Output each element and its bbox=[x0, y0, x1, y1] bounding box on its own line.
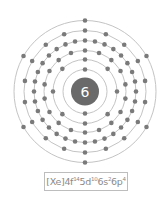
electron bbox=[109, 121, 114, 126]
electron bbox=[111, 132, 116, 137]
electron bbox=[40, 118, 45, 123]
config-orbital: 6s bbox=[97, 176, 107, 187]
electron bbox=[43, 136, 48, 141]
electron bbox=[123, 82, 128, 87]
electron bbox=[97, 128, 102, 133]
electron bbox=[134, 89, 139, 94]
electron bbox=[63, 136, 68, 141]
nucleus-label: 6 bbox=[81, 84, 90, 100]
electron bbox=[40, 61, 45, 66]
electron bbox=[69, 128, 74, 133]
electron bbox=[21, 54, 26, 59]
config-orbital: 6p bbox=[111, 176, 122, 187]
electron bbox=[83, 57, 88, 62]
electron bbox=[104, 147, 109, 152]
electron bbox=[51, 89, 56, 94]
bohr-model-diagram: 6 bbox=[0, 0, 167, 170]
electron bbox=[73, 139, 78, 144]
electron bbox=[130, 109, 135, 114]
electron bbox=[93, 39, 98, 44]
electron bbox=[123, 96, 128, 101]
electron bbox=[33, 99, 38, 104]
electron bbox=[47, 69, 52, 74]
electron bbox=[47, 125, 52, 130]
electron bbox=[115, 89, 120, 94]
electron bbox=[23, 79, 28, 84]
electron bbox=[119, 125, 124, 130]
electron bbox=[136, 59, 141, 64]
electron bbox=[32, 89, 37, 94]
electron bbox=[21, 125, 26, 130]
electron bbox=[144, 125, 149, 130]
electron bbox=[102, 136, 107, 141]
electron bbox=[118, 110, 123, 115]
config-electron-count: 4 bbox=[123, 176, 126, 182]
electron bbox=[83, 38, 88, 43]
electron bbox=[119, 53, 124, 58]
config-orbital: 5d bbox=[80, 176, 91, 187]
electron bbox=[136, 120, 141, 125]
electron bbox=[83, 28, 88, 33]
electron bbox=[105, 67, 110, 72]
electron bbox=[83, 140, 88, 145]
electron bbox=[102, 42, 107, 47]
electron bbox=[23, 100, 28, 105]
electron bbox=[62, 147, 67, 152]
electron bbox=[83, 160, 88, 165]
electron bbox=[125, 118, 130, 123]
electron bbox=[83, 121, 88, 126]
electron bbox=[36, 109, 41, 114]
electron bbox=[42, 96, 47, 101]
electron bbox=[47, 53, 52, 58]
electron bbox=[125, 61, 130, 66]
electron-configuration: [Xe] 4f145d106s26p4 bbox=[44, 172, 128, 191]
electron bbox=[30, 59, 35, 64]
electron bbox=[97, 51, 102, 56]
electron bbox=[63, 42, 68, 47]
electron bbox=[56, 121, 61, 126]
electron bbox=[60, 112, 65, 117]
electron bbox=[42, 82, 47, 87]
electron bbox=[83, 48, 88, 53]
electron bbox=[109, 58, 114, 63]
electron bbox=[122, 42, 127, 47]
config-terms: 4f145d106s26p4 bbox=[64, 176, 125, 187]
electron bbox=[143, 100, 148, 105]
electron bbox=[54, 132, 59, 137]
electron bbox=[118, 69, 123, 74]
electron bbox=[93, 139, 98, 144]
electron bbox=[36, 70, 41, 75]
electron bbox=[56, 58, 61, 63]
electron bbox=[30, 120, 35, 125]
electron bbox=[105, 112, 110, 117]
electron bbox=[60, 67, 65, 72]
electron bbox=[122, 136, 127, 141]
electron bbox=[62, 32, 67, 37]
electron bbox=[47, 110, 52, 115]
electron bbox=[43, 42, 48, 47]
electron bbox=[130, 70, 135, 75]
electron bbox=[83, 67, 88, 72]
electron bbox=[104, 32, 109, 37]
electron bbox=[133, 99, 138, 104]
electron bbox=[143, 79, 148, 84]
electron bbox=[33, 79, 38, 84]
electron bbox=[133, 79, 138, 84]
electron bbox=[69, 51, 74, 56]
electron bbox=[111, 47, 116, 52]
electron bbox=[83, 18, 88, 23]
config-core: [Xe] bbox=[46, 176, 64, 187]
electron bbox=[144, 54, 149, 59]
electron bbox=[83, 111, 88, 116]
electron bbox=[83, 150, 88, 155]
electron bbox=[83, 130, 88, 135]
electron bbox=[54, 47, 59, 52]
config-orbital: 4f bbox=[64, 176, 73, 187]
electron bbox=[73, 39, 78, 44]
